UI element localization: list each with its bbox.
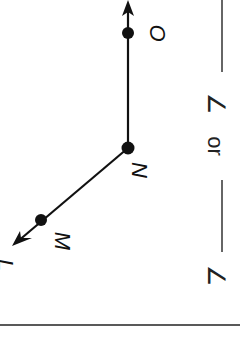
angle-diagram: O N M L ∠ or ∠	[0, 0, 240, 360]
angle-symbol-1: ∠	[203, 265, 230, 287]
angle-symbol-2: ∠	[203, 93, 230, 115]
point-o	[122, 27, 134, 39]
point-m	[35, 214, 47, 226]
point-n	[122, 142, 135, 155]
label-l: L	[0, 259, 18, 271]
label-o: O	[145, 24, 170, 41]
ray-nl	[17, 148, 128, 242]
label-n: N	[127, 162, 152, 178]
label-m: M	[50, 232, 75, 251]
or-connector: or	[203, 136, 228, 156]
